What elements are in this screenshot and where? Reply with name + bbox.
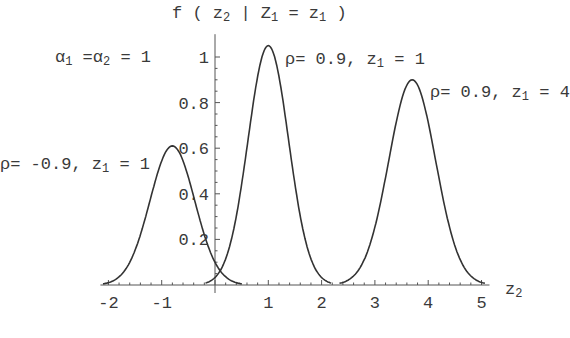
- axes: [100, 34, 489, 293]
- x-tick-label: -1: [151, 294, 171, 313]
- y-axis-label: f ( z2 | Z1 = z1 ): [172, 4, 347, 25]
- x-tick-label: 1: [263, 294, 273, 313]
- x-tick-label: -2: [98, 294, 118, 313]
- tick-labels: -2-1123450.20.40.60.81: [98, 49, 486, 313]
- x-tick-label: 5: [476, 294, 486, 313]
- series-label-rho-neg09-z1-1: ρ= -0.9, z1 = 1: [0, 155, 150, 176]
- y-tick-label: 1: [199, 49, 209, 68]
- x-tick-label: 4: [423, 294, 433, 313]
- x-tick-label: 2: [316, 294, 326, 313]
- series-label-rho-09-z1-4: ρ= 0.9, z1 = 4: [430, 83, 570, 104]
- series-label-rho-09-z1-1: ρ= 0.9, z1 = 1: [285, 50, 425, 71]
- y-tick-label: 0.8: [178, 95, 209, 114]
- alpha-parameters-annotation: α1 =α2 = 1: [55, 48, 151, 69]
- y-tick-label: 0.4: [178, 186, 209, 205]
- x-axis-label: z2: [505, 280, 522, 301]
- x-tick-label: 3: [370, 294, 380, 313]
- density-curve-3: [340, 80, 485, 283]
- y-tick-label: 0.6: [178, 140, 209, 159]
- y-tick-label: 0.2: [178, 231, 209, 250]
- density-curves: [103, 46, 485, 284]
- density-curve-2: [206, 46, 332, 283]
